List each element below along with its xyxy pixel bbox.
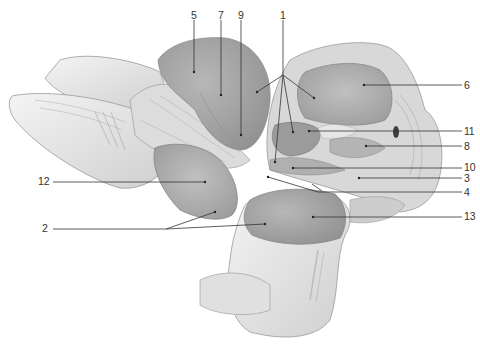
label-8: 8 bbox=[464, 141, 470, 152]
label-6: 6 bbox=[464, 80, 470, 91]
label-9: 9 bbox=[238, 10, 244, 21]
label-3: 3 bbox=[464, 173, 470, 184]
label-11: 11 bbox=[464, 126, 475, 137]
label-1: 1 bbox=[280, 10, 286, 21]
right-bone-capsule bbox=[267, 43, 442, 212]
label-7: 7 bbox=[218, 10, 224, 21]
label-5: 5 bbox=[191, 10, 197, 21]
illustration-drawing bbox=[0, 0, 480, 350]
anatomical-figure: 5 7 9 1 6 11 8 10 3 4 13 12 2 bbox=[0, 0, 480, 350]
label-13: 13 bbox=[464, 211, 475, 222]
label-4: 4 bbox=[464, 187, 470, 198]
label-12: 12 bbox=[38, 176, 49, 187]
label-2: 2 bbox=[42, 223, 48, 234]
